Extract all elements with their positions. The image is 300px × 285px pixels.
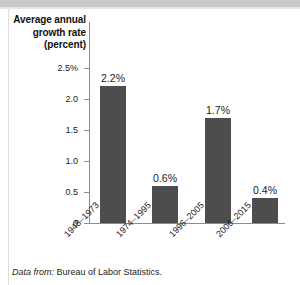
y-tick-mark-2.5 <box>84 68 89 69</box>
y-axis-title: Average annual growth rate (percent) <box>8 14 86 52</box>
y-tick-label-1.5: 1.5 <box>36 126 78 135</box>
source-note-text: Bureau of Labor Statistics. <box>57 267 163 277</box>
y-axis-title-line-1: Average annual <box>8 14 86 27</box>
y-tick-label-0.5: 0.5 <box>36 188 78 197</box>
y-tick-mark-1.5 <box>84 130 89 131</box>
scan-top-band-fade <box>0 7 300 9</box>
y-axis-title-line-2: growth rate <box>8 27 86 40</box>
bar-1996-2005 <box>205 118 231 223</box>
source-note: Data from: Bureau of Labor Statistics. <box>12 267 162 277</box>
y-tick-mark-0.5 <box>84 192 89 193</box>
y-tick-label-2.5: 2.5% <box>36 64 78 73</box>
y-axis-title-line-3: (percent) <box>8 39 86 52</box>
bar-1948-1973 <box>100 86 126 223</box>
y-tick-mark-1.0 <box>84 161 89 162</box>
scan-top-band <box>0 0 300 7</box>
bar-value-1996-2005: 1.7% <box>196 105 240 116</box>
bar-value-2006-2015: 0.4% <box>243 185 287 196</box>
bar-2006-2015 <box>252 198 278 223</box>
bar-1974-1995 <box>152 186 178 223</box>
source-note-lead: Data from: <box>12 267 54 277</box>
y-tick-label-1.0: 1.0 <box>36 157 78 166</box>
bar-value-1948-1973: 2.2% <box>91 73 135 84</box>
y-axis-line <box>89 22 90 223</box>
figure-bar-chart: Average annual growth rate (percent) 2.5… <box>0 0 300 285</box>
y-tick-mark-2.0 <box>84 99 89 100</box>
y-tick-label-2.0: 2.0 <box>36 95 78 104</box>
bar-value-1974-1995: 0.6% <box>143 173 187 184</box>
